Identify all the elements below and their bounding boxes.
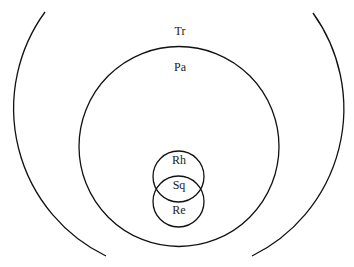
nested-venn-diagram: Tr Pa Rh Sq Re [0, 0, 354, 267]
re-label: Re [172, 203, 185, 217]
sq-label: Sq [173, 178, 186, 192]
tr-left-arc [14, 12, 106, 256]
pa-label: Pa [174, 60, 187, 74]
tr-label: Tr [175, 24, 186, 38]
rh-label: Rh [172, 153, 186, 167]
tr-right-arc [252, 13, 344, 256]
